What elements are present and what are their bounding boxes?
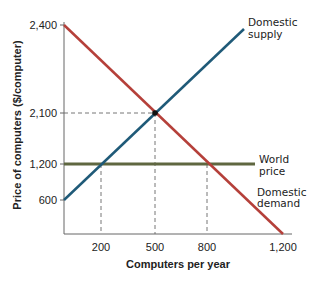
x-tick-label: 1,200 [269,241,297,253]
world-price-label-line1: World [259,153,289,165]
world-price-label-line2: price [259,165,285,177]
y-tick-label: 2,100 [29,107,57,119]
chart: 2,400 2,100 1,200 600 200 500 800 1,200 … [0,0,320,281]
demand-label-line2: demand [257,197,300,209]
y-tick-label: 600 [39,194,57,206]
supply-label-line2: supply [248,28,283,40]
x-tick-label: 200 [92,241,110,253]
supply-label-line1: Domestic [248,16,298,28]
x-tick-label: 800 [198,241,216,253]
x-tick-label: 500 [146,241,164,253]
y-tick-label: 2,400 [29,19,57,31]
equilibrium-point [152,110,158,116]
domestic-demand-line [64,25,283,234]
y-tick-label: 1,200 [29,158,57,170]
x-axis-title: Computers per year [126,258,231,270]
y-axis-title: Price of computers ($/computer) [11,40,23,210]
